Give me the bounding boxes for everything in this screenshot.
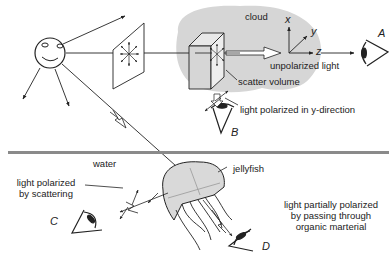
observer-c-label: C xyxy=(50,216,58,227)
jellyfish-icon xyxy=(163,162,232,250)
jellyfish-label: jellyfish xyxy=(233,163,264,174)
sun-ray-up xyxy=(63,16,125,44)
polarized-scattering-label: light polarized by scattering xyxy=(14,177,78,199)
polarized-scattering-pointer xyxy=(85,185,123,188)
observer-b-label: B xyxy=(231,127,238,138)
sun-ray-left xyxy=(23,68,40,99)
scatter-volume-label: scatter volume xyxy=(238,76,300,87)
polarized-scattering-line1: light polarized xyxy=(14,177,78,188)
polarization-plane xyxy=(113,23,144,89)
polarized-scattering-line2: by scattering xyxy=(14,188,78,199)
sun-ray-down xyxy=(55,69,69,106)
eye-a-icon xyxy=(362,40,388,66)
observer-d-label: D xyxy=(262,241,270,252)
partial-line2: by passing through xyxy=(275,210,387,221)
eye-c-icon xyxy=(72,210,102,233)
eye-d-icon xyxy=(229,229,253,251)
cloud-label: cloud xyxy=(245,11,268,22)
polarized-y-label: light polarized in y-direction xyxy=(240,104,355,115)
partial-line3: organic marterial xyxy=(275,221,387,232)
sun-icon xyxy=(35,38,65,68)
axis-y-label: y xyxy=(311,26,317,37)
water-label: water xyxy=(93,158,116,169)
axis-x-label: x xyxy=(285,14,291,25)
water-surface xyxy=(8,151,389,154)
partial-line1: light partially polarized xyxy=(275,199,387,210)
axis-z-label: z xyxy=(316,46,322,57)
observer-a-label: A xyxy=(378,28,385,39)
unpolarized-light-label: unpolarized light xyxy=(270,60,339,71)
scatter-volume-box xyxy=(189,33,224,89)
partially-polarized-label: light partially polarized by passing thr… xyxy=(275,199,387,232)
